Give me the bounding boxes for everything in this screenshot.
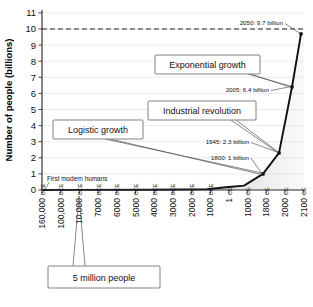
y-tick-label: 0 — [31, 184, 36, 195]
y-tick-label: 1 — [31, 168, 36, 179]
callout-exponential-growth-label: Exponential growth — [169, 60, 246, 70]
y-tick-label: 10 — [25, 23, 36, 34]
x-tick-label: 4000 — [149, 198, 159, 217]
x-tick-label: 1000 — [205, 198, 215, 217]
x-tick-label: 2000 — [280, 198, 290, 217]
x-tick-era: CE — [283, 187, 289, 195]
marker-2005 — [290, 85, 294, 89]
x-tick-era: BCE — [58, 183, 64, 195]
x-tick-era: BCE — [189, 183, 195, 195]
chart-canvas: 0 1 2 3 4 5 6 7 8 9 10 11 Number of peop… — [0, 0, 313, 307]
y-tick-label: 6 — [31, 88, 36, 99]
x-tick-label: 5000 — [131, 198, 141, 217]
y-tick-label: 5 — [31, 104, 36, 115]
y-tick-label: 7 — [31, 72, 36, 83]
population-growth-chart: 0 1 2 3 4 5 6 7 8 9 10 11 Number of peop… — [0, 0, 313, 307]
y-tick-label: 3 — [31, 136, 36, 147]
x-tick-era: CE — [301, 187, 307, 195]
x-tick-era: BCE — [152, 183, 158, 195]
label-2050-text: 2050: 9.7 billion — [240, 19, 284, 26]
label-1800-text: 1800: 1 billion — [211, 154, 250, 161]
x-tick-label: 2000 — [187, 198, 197, 217]
callout-five-million-people-label: 5 million people — [73, 273, 136, 283]
x-tick-era: BCE — [133, 183, 139, 195]
x-tick-labels: 160,000 BCE 100,000 BCE 10,000 BCE 7000 … — [37, 183, 309, 229]
x-tick-label: 100,000 — [56, 198, 66, 229]
x-tick-era: CE — [227, 187, 233, 195]
x-tick-era: BCE — [40, 183, 46, 195]
x-tick-label: 7000 — [93, 198, 103, 217]
x-tick-label: 6000 — [112, 198, 122, 217]
plot-area-background — [42, 10, 304, 190]
x-tick-era: CE — [264, 187, 270, 195]
y-tick-label: 8 — [31, 56, 36, 67]
x-tick-label: 2100 — [299, 198, 309, 217]
first-modern-humans-label: First modern humans — [47, 175, 107, 182]
marker-1800 — [261, 172, 265, 176]
x-tick-era: BCE — [170, 183, 176, 195]
callout-industrial-revolution-label: Industrial revolution — [163, 106, 241, 116]
y-tick-label: 9 — [31, 40, 36, 51]
y-tick-labels: 0 1 2 3 4 5 6 7 8 9 10 11 — [25, 7, 36, 195]
x-tick-era: BCE — [208, 183, 214, 195]
x-tick-label: 1800 — [261, 198, 271, 217]
x-tick-label: 1000 — [243, 198, 253, 217]
callout-logistic-growth-label: Logistic growth — [68, 125, 128, 135]
x-tick-era: BCE — [96, 183, 102, 195]
label-2005-text: 2005: 6.4 billion — [226, 86, 270, 93]
y-tick-label: 4 — [31, 120, 36, 131]
x-tick-label: 1 — [224, 198, 234, 203]
y-tick-label: 11 — [26, 7, 36, 18]
y-tick-label: 2 — [31, 152, 36, 163]
x-tick-era: CE — [245, 187, 251, 195]
x-tick-label: 160,000 — [37, 198, 47, 229]
x-tick-label: 3000 — [168, 198, 178, 217]
marker-2050 — [299, 32, 303, 36]
x-tick-era: BCE — [114, 183, 120, 195]
y-axis-title: Number of people (billions) — [3, 39, 14, 162]
x-tick-era: BCE — [77, 183, 83, 195]
label-1945-text: 1945: 2.3 billion — [206, 138, 250, 145]
